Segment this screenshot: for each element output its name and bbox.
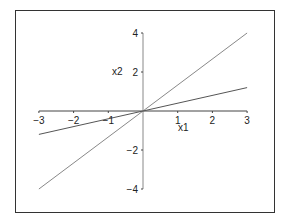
y-tick-label: 2 <box>132 67 138 78</box>
y-tick-label: −2 <box>127 145 139 156</box>
x-tick-label: −3 <box>33 115 45 126</box>
y-tick-label: −4 <box>127 184 139 195</box>
y-tick-label: 4 <box>132 28 138 39</box>
line-chart: −3−2−1123−4−224 x1 x2 <box>0 0 287 224</box>
x-tick-label: 3 <box>244 115 250 126</box>
x-axis-label: x1 <box>178 122 189 133</box>
x-tick-label: 2 <box>210 115 216 126</box>
y-axis-label: x2 <box>112 66 123 77</box>
x-tick-label: −1 <box>103 115 115 126</box>
x-tick-label: −2 <box>68 115 80 126</box>
